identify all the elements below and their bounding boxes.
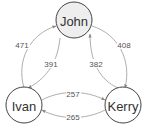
edge-ivan-to-kerry: 257 [42,89,105,100]
edge-label-408: 408 [117,41,131,50]
edge-label-391: 391 [44,60,58,69]
node-john[interactable]: John [56,2,92,38]
edge-kerry-to-ivan: 265 [42,110,105,122]
node-john-label: John [60,14,88,29]
node-kerry[interactable]: Kerry [105,87,141,123]
edge-label-382: 382 [89,60,103,69]
node-ivan-label: Ivan [12,99,37,114]
edge-john-to-kerry: 408 [92,26,132,88]
edge-label-257: 257 [66,90,80,99]
node-kerry-label: Kerry [107,99,139,114]
edge-ivan-to-john: 471 [15,26,56,88]
node-ivan[interactable]: Ivan [6,87,42,123]
edge-label-265: 265 [66,113,80,122]
graph-canvas: 471 391 408 382 257 265 John Ivan [0,0,147,133]
edge-label-471: 471 [15,41,29,50]
edge-kerry-to-john: 382 [89,34,118,88]
edge-john-to-ivan: 391 [28,38,60,88]
